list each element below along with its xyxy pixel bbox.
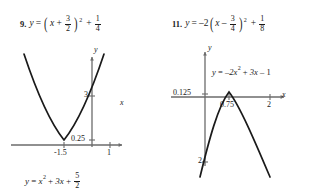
inline-eq-equals: =: [218, 68, 223, 77]
caption-plus-2: +: [66, 177, 71, 186]
exponent: 2: [79, 17, 82, 23]
caption-y: y: [25, 177, 29, 186]
equation-plus-2: +: [86, 19, 91, 29]
close-paren: ): [74, 18, 78, 30]
fraction-denominator: 4: [230, 25, 236, 33]
x-axis-arrow: [119, 143, 122, 147]
inline-eq-one: 1: [266, 68, 270, 77]
y-axis-arrow: [203, 52, 207, 55]
inline-eq-coef-x: –2x: [225, 68, 237, 77]
caption-equals: =: [31, 177, 36, 186]
inline-eq-exponent: 2: [238, 65, 241, 71]
fraction-denominator: 8: [259, 25, 265, 33]
problem-11-number: 11.: [172, 20, 182, 29]
fraction-numerator: 5: [74, 172, 80, 180]
equation-plus: +: [56, 19, 61, 29]
problem-11-equation: y = –2 ( x – 3 4 ) 2 + 1 8: [185, 15, 266, 33]
inline-eq-plus: +: [243, 68, 248, 77]
caption-three-x: 3x: [55, 177, 64, 186]
y-axis-arrow: [90, 57, 94, 60]
fraction-numerator: 3: [65, 15, 71, 23]
inline-eq-y: y: [212, 68, 216, 77]
fraction-denominator: 2: [74, 182, 80, 190]
vertex-x-label: -1.5: [54, 149, 67, 157]
vertex-x-label: 0.75: [220, 101, 234, 109]
graph-11-inline-equation: y = –2x 2 + 3x – 1: [212, 68, 271, 77]
y-intercept-label: 3: [84, 91, 88, 99]
fraction-denominator: 4: [95, 25, 101, 33]
caption-x: x: [38, 177, 42, 186]
vertex-y-label: 0.25: [71, 135, 85, 143]
fraction-one-fourth: 1 4: [95, 15, 101, 33]
problem-11-header: 11. y = –2 ( x – 3 4 ) 2 + 1 8: [172, 15, 266, 33]
x-axis-label: x: [282, 91, 286, 99]
inline-eq-three-x: 3x: [250, 68, 258, 77]
open-paren: (: [44, 18, 48, 30]
y-axis-label: y: [208, 44, 212, 52]
equation-coefficient: –2: [199, 19, 209, 29]
fraction-one-eighth: 1 8: [259, 15, 265, 33]
equation-x: x: [215, 19, 219, 29]
exponent: 2: [244, 17, 247, 23]
caption-fraction-five-halves: 5 2: [74, 172, 80, 190]
fraction-denominator: 2: [65, 25, 71, 33]
x-tick-label-2: 2: [267, 101, 271, 109]
fraction-numerator: 1: [259, 15, 265, 23]
caption-exponent: 2: [43, 174, 46, 180]
x-tick-label-1: 1: [107, 149, 111, 157]
fraction-numerator: 1: [95, 15, 101, 23]
problem-9-number: 9.: [20, 20, 26, 29]
equation-y: y: [185, 19, 189, 29]
graph-9-caption: y = x 2 + 3x + 5 2: [25, 172, 81, 190]
problem-9-equation: y = ( x + 3 2 ) 2 + 1 4: [29, 15, 101, 33]
y-axis-label: y: [94, 46, 98, 54]
equation-equals: =: [192, 19, 197, 29]
fraction-numerator: 3: [230, 15, 236, 23]
inline-eq-minus: –: [260, 68, 264, 77]
worksheet-page: 9. y = ( x + 3 2 ) 2 + 1 4 11. y: [0, 0, 310, 194]
equation-equals: =: [36, 19, 41, 29]
open-paren: (: [210, 18, 214, 30]
close-paren: ): [239, 18, 243, 30]
fraction-three-halves: 3 2: [65, 15, 71, 33]
x-axis-label: x: [120, 99, 124, 107]
equation-minus: –: [222, 19, 227, 29]
equation-plus-2: +: [251, 19, 256, 29]
y-value-label: 0.125: [173, 89, 191, 97]
fraction-three-fourths: 3 4: [230, 15, 236, 33]
caption-plus-1: +: [48, 177, 53, 186]
graph-problem-11: y x y = –2x 2 + 3x – 1 0.125 0.75 2 2: [160, 44, 310, 189]
equation-x: x: [50, 19, 54, 29]
problem-9-header: 9. y = ( x + 3 2 ) 2 + 1 4: [20, 15, 102, 33]
equation-y: y: [29, 19, 33, 29]
y-bottom-label: 2: [198, 157, 202, 165]
parabola-curve-11: [200, 92, 270, 177]
graph-problem-9: x y 3 0.25 -1.5 1: [0, 44, 150, 164]
